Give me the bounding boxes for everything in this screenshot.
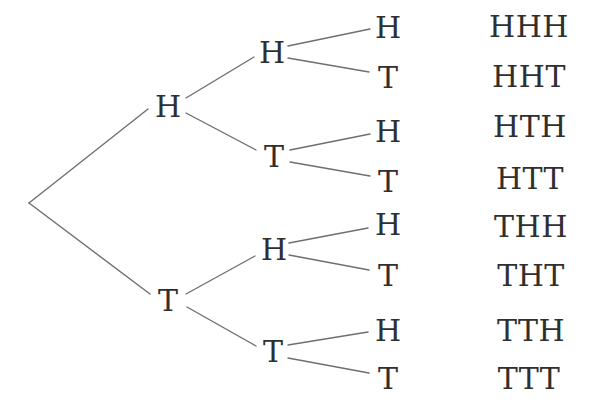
outcome-thh: THH <box>494 209 568 244</box>
outcome-hth: HTH <box>493 109 567 144</box>
coin-toss-tree-figure: H T H T H T H T H T H T H T HHH HHT HTH … <box>0 0 594 412</box>
branch-t-th <box>186 256 255 294</box>
toss2-node-ht: T <box>264 139 284 174</box>
outcome-htt: HTT <box>496 161 564 196</box>
branch-hh-hht <box>288 58 369 72</box>
tree-diagram-canvas: H T H T H T H T H T H T H T HHH HHT HTH … <box>0 0 594 412</box>
toss2-labels: H T H T <box>259 35 287 369</box>
branch-h-ht <box>186 113 256 150</box>
branch-hh-hhh <box>288 29 370 46</box>
toss3-node-hth: H <box>375 114 401 149</box>
branch-h-hh <box>186 57 254 98</box>
toss1-node-t: T <box>158 283 178 318</box>
toss3-node-hht: T <box>378 60 398 95</box>
toss3-node-htt: T <box>378 164 398 199</box>
toss3-labels: H T H T H T H T <box>375 10 401 396</box>
toss3-node-ttt: T <box>378 361 398 396</box>
branch-t-tt <box>187 307 256 346</box>
outcome-labels: HHH HHT HTH HTT THH THT TTH TTT <box>489 9 569 396</box>
outcome-hhh: HHH <box>489 9 569 44</box>
branch-th-tht <box>289 255 369 270</box>
outcome-tth: TTH <box>497 313 565 348</box>
outcome-ttt: TTT <box>498 361 561 396</box>
toss3-node-hhh: H <box>375 10 401 45</box>
branch-lines <box>29 29 370 373</box>
branch-root-h <box>29 109 148 203</box>
branch-tt-ttt <box>288 358 369 373</box>
toss3-node-tht: T <box>378 258 398 293</box>
toss1-labels: H T <box>155 89 181 318</box>
toss2-node-tt: T <box>263 334 283 369</box>
branch-root-t <box>29 203 150 294</box>
branch-ht-htt <box>290 162 370 176</box>
toss2-node-th: H <box>261 232 287 267</box>
outcome-tht: THT <box>497 258 565 293</box>
toss3-node-thh: H <box>375 207 401 242</box>
toss2-node-hh: H <box>259 35 285 70</box>
outcome-hht: HHT <box>492 59 566 94</box>
branch-tt-tth <box>288 332 368 345</box>
toss1-node-h: H <box>155 89 181 124</box>
branch-ht-hth <box>290 134 370 150</box>
branch-th-thh <box>289 228 368 243</box>
toss3-node-tth: H <box>375 313 401 348</box>
